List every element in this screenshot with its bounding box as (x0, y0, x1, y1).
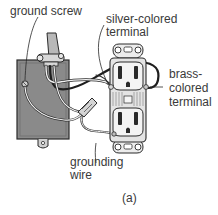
brass-terminal-screw (144, 85, 149, 90)
duplex-outlet (109, 44, 149, 153)
label-grounding-wire-line2: wire (70, 169, 92, 182)
label-brass-terminal-line2: colored (169, 82, 208, 95)
label-brass-terminal-line1: brass- (169, 68, 202, 81)
figure-caption: (a) (122, 192, 137, 205)
label-silver-terminal-line2: terminal (106, 26, 149, 39)
electrical-box (17, 60, 69, 148)
wire-nut (78, 98, 97, 117)
green-ground-screw (112, 132, 116, 136)
label-ground-screw: ground screw (10, 5, 82, 18)
label-brass-terminal-line3: terminal (169, 96, 212, 109)
silver-terminal-screw (109, 85, 114, 90)
